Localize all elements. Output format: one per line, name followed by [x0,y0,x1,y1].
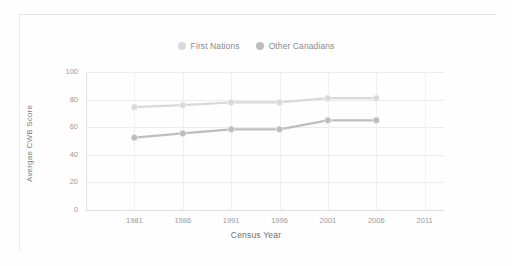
data-point-marker[interactable] [276,126,283,133]
series-other-canadians [131,95,380,111]
data-point-marker[interactable] [325,95,332,102]
data-series-layer [0,0,512,266]
series-line [134,120,376,137]
data-point-marker[interactable] [228,99,235,106]
plot-area: Avergae CWB Score Census Year 0204060801… [0,0,512,266]
data-point-marker[interactable] [228,126,235,133]
data-point-marker[interactable] [373,95,380,102]
data-point-marker[interactable] [325,117,332,124]
data-point-marker[interactable] [131,134,138,141]
data-point-marker[interactable] [179,130,186,137]
series-first-nations [131,117,380,141]
data-point-marker[interactable] [373,117,380,124]
data-point-marker[interactable] [131,104,138,111]
series-line [134,98,376,107]
data-point-marker[interactable] [179,102,186,109]
data-point-marker[interactable] [276,99,283,106]
chart-figure: First Nations Other Canadians Avergae CW… [0,0,512,266]
